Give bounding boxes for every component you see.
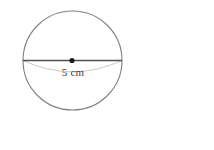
center-point-dot (69, 58, 74, 63)
sphere-diagram-svg (0, 0, 214, 118)
diameter-dimension-label: 5 cm (45, 66, 101, 78)
answer-row: ( ) cm (0, 118, 214, 150)
sphere-figure: 5 cm (0, 0, 214, 118)
